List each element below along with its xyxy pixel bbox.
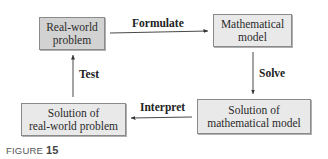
node-text: Solution of bbox=[48, 107, 99, 119]
node-text: problem bbox=[53, 34, 91, 46]
caption-number: 15 bbox=[46, 144, 59, 156]
figure-caption: FIGURE 15 bbox=[6, 144, 59, 156]
node-text: Mathematical bbox=[221, 18, 284, 30]
node-text: model bbox=[238, 31, 267, 43]
label-formulate: Formulate bbox=[132, 17, 184, 29]
node-text: real-world problem bbox=[29, 120, 118, 132]
node-solution-math-model: Solution of mathematical model bbox=[197, 99, 311, 134]
formulate-arrow bbox=[110, 31, 208, 33]
label-interpret: Interpret bbox=[140, 101, 185, 113]
label-solve: Solve bbox=[259, 67, 285, 79]
node-text: mathematical model bbox=[207, 117, 301, 129]
node-real-world-problem: Real-world problem bbox=[39, 17, 105, 50]
node-text: Solution of bbox=[228, 104, 279, 116]
label-test: Test bbox=[79, 68, 99, 80]
interpret-arrow bbox=[131, 117, 192, 118]
caption-prefix: FIGURE bbox=[6, 145, 43, 156]
node-mathematical-model: Mathematical model bbox=[213, 14, 292, 47]
node-solution-real-world: Solution of real-world problem bbox=[21, 103, 126, 136]
node-text: Real-world bbox=[46, 21, 98, 33]
